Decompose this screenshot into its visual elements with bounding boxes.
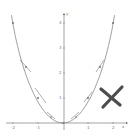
y-tick-label-2: 2	[59, 71, 62, 75]
parabola-curve-line	[12, 15, 115, 123]
x-axis-label: x	[122, 125, 124, 129]
x-tick-label-neg2: -2	[11, 126, 15, 130]
x-axis-arrow-icon	[126, 122, 128, 124]
tangent-lines	[20, 60, 104, 119]
y-tick-label-1: 1	[59, 96, 62, 100]
y-axis-arrow-icon	[63, 13, 65, 15]
parabola-plot	[0, 0, 134, 139]
y-tick-label-3: 3	[59, 46, 62, 50]
x-mark-icon	[101, 87, 122, 107]
x-tick-label-2: 2	[112, 126, 115, 130]
y-axis-label: y	[66, 12, 68, 16]
x-tick-label-neg1: -1	[36, 126, 40, 130]
parabola-curve	[11, 15, 115, 123]
x-tick-label-1: 1	[87, 126, 90, 130]
y-tick-label-4: 4	[59, 21, 62, 25]
